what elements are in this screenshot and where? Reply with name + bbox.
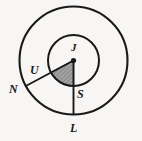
shaded-sector-jus xyxy=(51,61,74,87)
label-inner-s: S xyxy=(77,88,84,100)
label-outer-l: L xyxy=(70,122,77,134)
label-outer-n: N xyxy=(9,83,18,95)
geometry-figure: J S L U N xyxy=(0,0,142,141)
center-point-dot xyxy=(71,58,76,63)
figure-canvas xyxy=(0,0,142,141)
label-inner-u: U xyxy=(30,64,39,76)
label-center-j: J xyxy=(71,42,77,53)
